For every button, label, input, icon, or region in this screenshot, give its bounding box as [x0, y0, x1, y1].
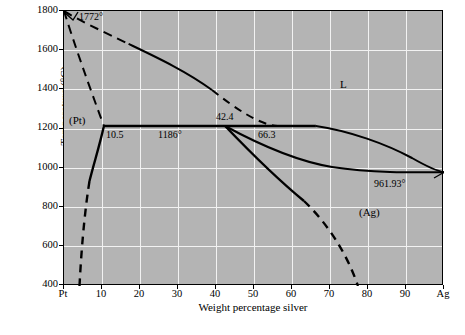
y-tick-label: 600 — [0, 240, 58, 250]
plot-area: 1772° (Pt) 10.5 1186° 42.4 66.3 L 961.93… — [63, 10, 443, 285]
y-tick-label: 800 — [0, 201, 58, 211]
annotation-eutectic-temperature: 1186° — [158, 130, 182, 140]
y-tick-label: 400 — [0, 279, 58, 289]
solvus-pt-dashed — [80, 181, 90, 286]
phase-label-ag: (Ag) — [359, 207, 380, 218]
solvus-pt-solid — [90, 126, 104, 181]
annotation-left-solubility: 10.5 — [106, 130, 124, 140]
y-tick-label: 1400 — [0, 83, 58, 93]
x-tick-label: 80 — [347, 289, 387, 299]
x-tick-label: 50 — [233, 289, 273, 299]
y-tick-label: 1600 — [0, 44, 58, 54]
x-tick-label: 70 — [309, 289, 349, 299]
x-tick-label: 10 — [81, 289, 121, 299]
phase-diagram-figure: Temperature (°C) 1800 1600 1400 1200 100… — [0, 0, 465, 335]
phase-label-liquid: L — [340, 79, 347, 90]
x-tick-label: 60 — [271, 289, 311, 299]
x-tick-label: 40 — [195, 289, 235, 299]
y-tick-label: 1000 — [0, 162, 58, 172]
x-tick-label: 20 — [119, 289, 159, 299]
annotation-ag-melting-point: 961.93° — [374, 179, 406, 189]
x-tick-label: 90 — [385, 289, 425, 299]
solvus-ag-dashed — [304, 201, 358, 286]
annotation-eutectic-composition: 42.4 — [216, 112, 234, 122]
annotation-pt-melting-point: 1772° — [79, 12, 103, 22]
x-tick-label: 30 — [157, 289, 197, 299]
liquidus-pt-solid — [129, 44, 212, 90]
x-tick-label: Pt — [43, 289, 83, 299]
y-tick-label: 1200 — [0, 122, 58, 132]
phase-label-pt: (Pt) — [69, 115, 86, 126]
liquidus-ag-solid — [316, 126, 444, 172]
x-tick-label: Ag — [423, 289, 463, 299]
phase-boundary-curves — [64, 11, 444, 286]
y-tick-label: 1800 — [0, 5, 58, 15]
x-axis-title: Weight percentage silver — [63, 301, 443, 313]
annotation-right-solubility: 66.3 — [258, 130, 276, 140]
